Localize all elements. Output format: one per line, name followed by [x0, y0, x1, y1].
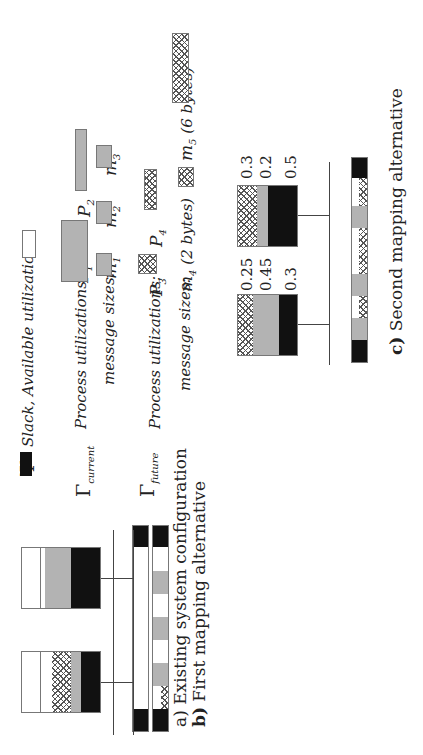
bus-line [133, 530, 134, 735]
panel-b-caption: b) First mapping alternative [189, 481, 209, 727]
process-p3-swatch [138, 254, 157, 274]
gamma-current-label: Γcurrent [72, 446, 96, 497]
slack-label: Slack, Available utilization [19, 245, 37, 447]
message-m3-swatch [96, 145, 112, 168]
process-p2-label: P2 [74, 199, 96, 217]
panel-c-node-2-value-gray: 0.2 [257, 155, 275, 179]
process-p2-swatch [75, 129, 87, 191]
future-message-label: message sizes: [176, 278, 194, 391]
process-p4-label: P4 [146, 229, 168, 247]
panel-a-bus-schedule [132, 525, 149, 732]
panel-c-node-1-value-black: 0.3 [282, 267, 300, 291]
panel-c-node-1-value-gray: 0.45 [257, 258, 275, 291]
message-m5-swatch [172, 33, 189, 103]
panel-b-bus-schedule [152, 525, 169, 732]
node-link [101, 682, 133, 683]
panel-c-node-2 [237, 185, 298, 247]
psi-swatch [20, 452, 32, 476]
panel-b-node-1 [40, 651, 101, 713]
process-p1-swatch [61, 220, 88, 282]
panel-c-node-2-value-black: 0.5 [282, 155, 300, 179]
process-p3-label: P3 [146, 278, 168, 296]
panel-c-node-1-value-hatch: 0.25 [238, 258, 256, 291]
node-link [298, 215, 329, 216]
message-m1-swatch [96, 253, 112, 276]
panel-c-bus-schedule [351, 157, 368, 363]
panel-a-caption: a) Existing system configuration [170, 448, 190, 727]
node-link [101, 578, 133, 579]
node-link [298, 324, 329, 325]
message-m4-label: m4 (2 bytes) [176, 198, 198, 292]
future-process-label: Process utilizations: [146, 276, 164, 429]
current-message-label: message sizes: [100, 272, 118, 385]
bus-line [329, 162, 330, 365]
panel-c-node-1 [237, 294, 298, 356]
message-m2-swatch [96, 201, 112, 224]
gamma-future-label: Γfuture [136, 453, 160, 498]
panel-c-caption: c) Second mapping alternative [386, 88, 406, 355]
figure-canvas: a) Existing system configuration [0, 0, 423, 755]
message-m4-swatch [178, 167, 194, 187]
slack-swatch [22, 230, 36, 258]
process-p4-swatch [144, 169, 157, 210]
current-process-label: Process utilizations: [72, 276, 90, 429]
panel-c-node-2-value-hatch: 0.3 [238, 155, 256, 179]
bus-line [113, 530, 114, 735]
panel-b-node-2 [40, 547, 101, 609]
